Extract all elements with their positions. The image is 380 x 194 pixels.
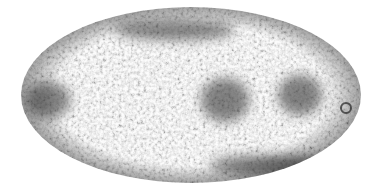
sky-map-figure <box>0 0 380 194</box>
sky-texture <box>0 0 380 194</box>
mollweide-sky-map <box>0 0 380 194</box>
